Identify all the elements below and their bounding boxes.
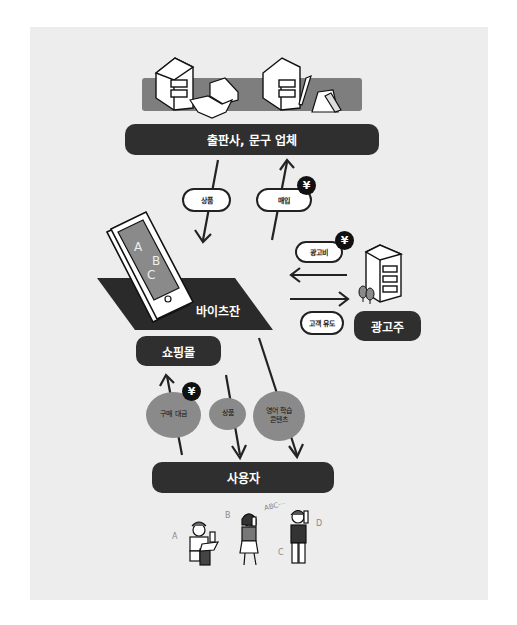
user-d-figure: [291, 511, 308, 564]
label-english-content: 영어 학습 콘텐츠: [253, 391, 305, 441]
user-b-figure: [240, 514, 258, 565]
node-platform-label: 바이츠잔: [196, 302, 240, 319]
label-customer-referral: 고객 유도: [300, 311, 344, 335]
tree-icon: [359, 286, 374, 304]
node-users-label: 사용자: [227, 469, 260, 486]
user-a-figure: [190, 522, 218, 565]
label-goods-to-users: 상품: [209, 398, 246, 430]
node-shop: 쇼핑몰: [136, 336, 221, 366]
node-users: 사용자: [152, 462, 334, 493]
phone-letter-c: C: [147, 268, 155, 282]
node-shop-label: 쇼핑몰: [162, 343, 195, 360]
label-goods-text: 상품: [201, 195, 213, 205]
label-goods-to-users-text: 상품: [222, 409, 234, 418]
stationery-building-icon: [263, 58, 300, 110]
phone-letter-b: B: [152, 254, 160, 268]
label-purchase-payment-text: 구매 대금: [160, 410, 186, 419]
arrow-ad-fee: [291, 268, 347, 282]
user-label-b: B: [225, 511, 231, 520]
node-suppliers: 출판사, 문구 업체: [125, 124, 379, 155]
user-label-a: A: [172, 532, 177, 541]
books-icon: [190, 78, 238, 118]
label-customer-referral-text: 고객 유도: [309, 318, 335, 328]
node-suppliers-label: 출판사, 문구 업체: [207, 131, 297, 148]
label-purchase-text: 매입: [278, 195, 290, 205]
label-english-content-line1: 영어 학습: [266, 407, 292, 416]
pen-icon: [299, 76, 311, 105]
label-english-content-line2: 콘텐츠: [270, 416, 288, 425]
user-label-c: C: [278, 548, 284, 557]
user-label-d: D: [316, 519, 322, 528]
ruler-notepad-icon: [312, 90, 341, 112]
label-goods: 상품: [182, 188, 231, 212]
node-advertiser-label: 광고주: [371, 318, 404, 335]
yen-icon: ¥: [297, 176, 316, 195]
node-advertiser: 광고주: [354, 311, 421, 341]
yen-icon: ¥: [335, 231, 354, 250]
yen-icon: ¥: [182, 382, 201, 401]
publisher-building-icon: [156, 58, 193, 110]
arrow-customer-referral: [290, 292, 348, 306]
diagram-graphics: [0, 0, 517, 625]
phone-letter-a: A: [134, 240, 142, 254]
label-ad-fee-text: 광고비: [310, 247, 328, 257]
